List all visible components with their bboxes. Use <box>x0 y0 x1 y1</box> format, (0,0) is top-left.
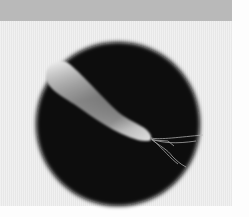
micrograph-scene <box>0 0 249 217</box>
